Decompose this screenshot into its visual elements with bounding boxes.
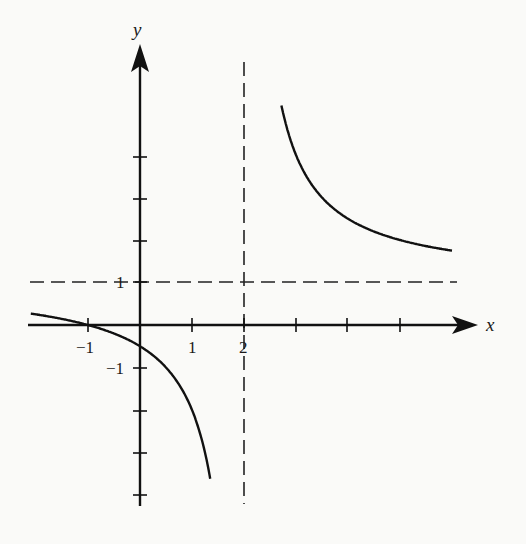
curve-right-branch	[281, 105, 452, 250]
x-axis-label: x	[486, 315, 494, 334]
x-tick-label-neg1: −1	[76, 339, 94, 356]
graph-canvas	[0, 0, 526, 544]
x-tick-label-1: 1	[188, 339, 197, 356]
curve-left-branch	[31, 314, 210, 479]
x-tick-label-2: 2	[239, 339, 248, 356]
y-tick-label-1: 1	[116, 274, 125, 291]
y-tick-label-neg1: −1	[106, 360, 124, 377]
y-axis-label: y	[133, 20, 141, 39]
